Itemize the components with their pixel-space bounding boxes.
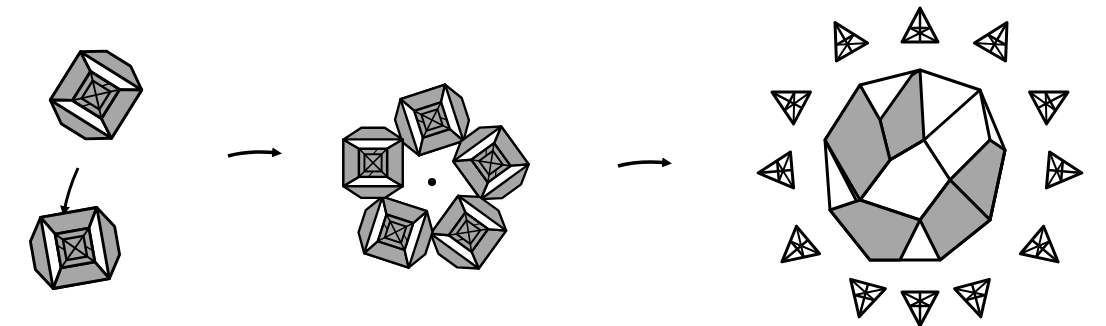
arrow-1-to-2 — [228, 152, 278, 156]
origami-unit-upper — [43, 40, 150, 151]
spike-top — [902, 8, 938, 42]
origami-unit-5 — [343, 128, 402, 198]
spike-left-upper — [764, 76, 811, 124]
step-1-group — [27, 40, 150, 291]
origami-unit-4 — [353, 193, 438, 271]
origami-unit-lower — [27, 205, 124, 291]
spike-bottom-1 — [842, 279, 886, 321]
spike-right-upper — [1030, 76, 1077, 124]
spike-left — [757, 152, 794, 191]
origami-unit-3 — [424, 186, 513, 278]
spike-top-right — [974, 14, 1022, 61]
spike-right — [1046, 152, 1083, 191]
spike-bottom-2 — [902, 292, 938, 326]
arrow-insert — [64, 168, 78, 212]
step-3-group — [757, 8, 1084, 326]
spike-bottom-left — [770, 226, 819, 275]
spike-top-left — [819, 14, 867, 61]
assembly-diagram: Join two units Five units around a verte… — [0, 0, 1106, 326]
step-2-group — [343, 81, 535, 278]
spike-bottom-3 — [955, 279, 999, 321]
spike-bottom-right — [1020, 226, 1069, 275]
arrow-2-to-3 — [618, 162, 668, 166]
